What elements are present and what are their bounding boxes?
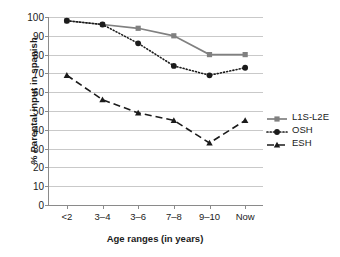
y-tick-label: 10 (33, 181, 44, 192)
legend-swatch-icon (266, 137, 288, 149)
series-layer (49, 17, 263, 205)
y-tick-label: 20 (33, 162, 44, 173)
x-tick-label: <2 (61, 211, 72, 222)
series-osh (64, 18, 248, 78)
y-tick-label: 80 (33, 49, 44, 60)
data-point (136, 26, 141, 31)
data-point (243, 52, 248, 57)
y-tick-label: 100 (27, 12, 44, 23)
series-line (67, 21, 245, 55)
legend-label: L1S-L2E (292, 111, 329, 122)
data-point (171, 33, 176, 38)
legend-label: OSH (292, 124, 313, 135)
series-line (67, 75, 245, 143)
y-tick-label: 0 (38, 200, 44, 211)
x-tick-label: 9–10 (199, 211, 220, 222)
data-point (171, 63, 177, 69)
data-point (99, 97, 105, 103)
legend-item-l1s-l2e[interactable]: L1S-L2E (266, 110, 340, 123)
data-point (207, 52, 212, 57)
x-axis-title: Age ranges (in years) (48, 233, 262, 244)
x-tick-mark (138, 205, 139, 209)
legend-item-esh[interactable]: ESH (266, 136, 340, 149)
x-tick-mark (245, 205, 246, 209)
data-point (64, 72, 70, 78)
legend-swatch-icon (266, 111, 288, 123)
x-tick-mark (67, 205, 68, 209)
data-point (242, 65, 248, 71)
y-tick-label: 50 (33, 106, 44, 117)
legend-item-osh[interactable]: OSH (266, 123, 340, 136)
x-tick-label: Now (236, 211, 255, 222)
x-tick-label: 3–4 (95, 211, 111, 222)
x-tick-mark (103, 205, 104, 209)
data-point (207, 72, 213, 78)
y-tick-label: 90 (33, 30, 44, 41)
y-tick-label: 60 (33, 87, 44, 98)
series-esh (64, 72, 249, 145)
y-tick-label: 30 (33, 143, 44, 154)
legend-swatch-icon (266, 124, 288, 136)
chart-figure: % Parental input in spanish Age ranges (… (0, 0, 340, 257)
y-tick-label: 70 (33, 68, 44, 79)
x-tick-mark (210, 205, 211, 209)
x-tick-label: 7–8 (166, 211, 182, 222)
chart-legend: L1S-L2EOSHESH (266, 110, 340, 149)
data-point (100, 22, 106, 28)
legend-label: ESH (292, 137, 312, 148)
x-tick-label: 3–6 (130, 211, 146, 222)
data-point (242, 117, 248, 123)
series-line (67, 21, 245, 76)
data-point (64, 18, 70, 24)
x-tick-mark (174, 205, 175, 209)
y-tick-label: 40 (33, 124, 44, 135)
data-point (135, 40, 141, 46)
y-tick-mark (45, 205, 49, 206)
plot-area: 0102030405060708090100 <23–43–67–89–10No… (48, 17, 263, 206)
